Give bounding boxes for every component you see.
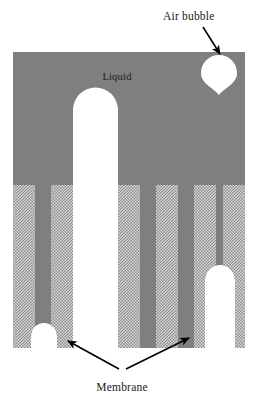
membrane-label: Membrane — [96, 381, 147, 393]
membrane-column — [51, 185, 73, 348]
membrane-diagram: Air bubble Liquid Membrane — [0, 0, 261, 398]
membrane-column — [118, 185, 140, 348]
membrane-column — [13, 185, 35, 348]
membrane-column — [156, 185, 178, 348]
diagram-canvas: Air bubble Liquid Membrane — [0, 0, 261, 398]
air-bubble-label: Air bubble — [163, 10, 215, 22]
liquid-label: Liquid — [102, 71, 132, 82]
